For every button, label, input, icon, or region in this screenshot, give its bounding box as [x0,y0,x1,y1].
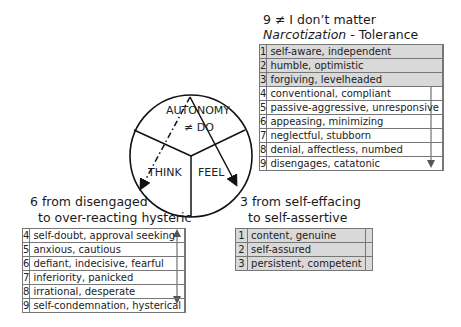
table-row: 6defiant, indecisive, fearful [23,257,186,271]
table-row: 7neglectful, stubborn [260,129,444,143]
table-row: 5anxious, cautious [23,243,186,257]
table-row: 4self-doubt, approval seeking [23,229,186,243]
think-label: THINK [148,166,182,179]
not-do-label: ≠ DO [184,121,214,134]
right-table: 1content, genuine 2self-assured 3persist… [235,228,373,271]
feel-label: FEEL [198,166,224,179]
table-row: 5passive-aggressive, unresponsive [260,101,444,115]
table-row: 2self-assured [236,243,373,257]
autonomy-label: AUTONOMY [166,104,230,117]
table-row: 3forgiving, levelheaded [260,73,444,87]
top-title-line2: Narcotization - Tolerance [263,27,418,43]
table-row: 9disengages, catatonic [260,157,444,171]
table-row: 4conventional, compliant [260,87,444,101]
top-title-line1: 9 ≠ I don’t matter [263,12,376,28]
top-table: 1self-aware, independent 2humble, optimi… [259,44,444,171]
table-row: 6appeasing, minimizing [260,115,444,129]
narcotization-term: Narcotization [263,27,346,42]
table-row: 8irrational, desperate [23,285,186,299]
table-row: 7inferiority, panicked [23,271,186,285]
table-row: 1content, genuine [236,229,373,243]
table-row: 2humble, optimistic [260,59,444,73]
left-title-line2: to over-reacting hysteric [38,210,191,226]
table-row: 9self-condemnation, hysterical [23,299,186,313]
left-title-line1: 6 from disengaged [30,194,148,210]
right-title-line1: 3 from self-effacing [240,194,361,210]
divider-left [134,130,191,156]
table-row: 3persistent, competent [236,257,373,271]
left-table: 4self-doubt, approval seeking 5anxious, … [22,228,186,313]
right-title-line2: to self-assertive [248,210,347,226]
table-row: 8denial, affectless, numbed [260,143,444,157]
table-row: 1self-aware, independent [260,45,444,59]
